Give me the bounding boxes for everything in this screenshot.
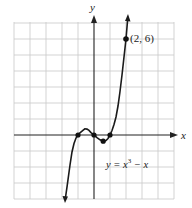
x-axis-label: x	[181, 130, 186, 141]
curve-bottom-arrow-icon	[63, 196, 69, 203]
point-0-0	[91, 132, 96, 137]
point-1-0	[107, 132, 112, 137]
curve-top-arrow-icon	[125, 14, 131, 22]
point-local-min	[101, 139, 106, 144]
y-axis	[91, 15, 97, 199]
graph-canvas	[0, 0, 192, 208]
equation-main: y = x	[106, 159, 128, 170]
y-axis-arrow-icon	[91, 15, 97, 23]
equation-tail: − x	[131, 159, 148, 170]
y-axis-label: y	[90, 2, 95, 13]
equation-label: y = x3 − x	[106, 158, 148, 170]
curve-cubic	[65, 20, 127, 200]
point-2-6	[123, 36, 129, 42]
point-label-2-6: (2, 6)	[130, 33, 154, 44]
point-neg1-0	[75, 132, 80, 137]
